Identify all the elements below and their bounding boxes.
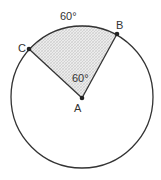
point-c	[27, 47, 32, 52]
label-b: B	[116, 19, 123, 31]
point-b	[115, 32, 120, 37]
point-a	[80, 96, 85, 101]
label-c: C	[18, 42, 26, 54]
label-a: A	[74, 102, 82, 114]
central-angle-label: 60°	[72, 72, 89, 84]
arc-angle-label: 60°	[60, 10, 77, 22]
circle-diagram: A B C 60° 60°	[0, 0, 161, 180]
